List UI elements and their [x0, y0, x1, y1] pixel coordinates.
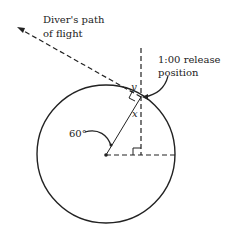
diagram-canvas: Diver's path of flight 1:00 release posi…	[0, 0, 231, 236]
path-label-line1: Diver's path	[43, 14, 105, 25]
right-angle-mark	[133, 148, 141, 155]
angle-arrow	[85, 131, 111, 146]
flight-arrow-icon	[17, 27, 25, 33]
release-arrow	[144, 76, 168, 97]
release-label-line2: position	[158, 67, 199, 78]
angle-arrow-head	[110, 144, 113, 147]
tangent-right-angle-mark	[129, 92, 135, 101]
y-label: y	[130, 81, 137, 92]
path-label-line2: of flight	[43, 28, 83, 39]
angle-label: 60°	[69, 128, 87, 139]
diver-diagram: Diver's path of flight 1:00 release posi…	[0, 0, 231, 236]
center-point	[104, 153, 108, 157]
release-label-line1: 1:00 release	[158, 54, 221, 65]
flight-path-line	[22, 30, 141, 97]
x-label: x	[132, 108, 138, 119]
